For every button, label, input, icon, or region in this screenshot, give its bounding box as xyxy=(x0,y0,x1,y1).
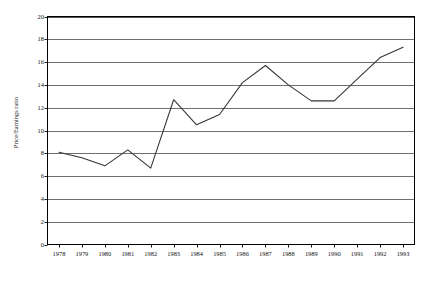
price-earnings-ratio-line-chart: Price/Earnings ratio 02468101214161820 1… xyxy=(0,0,436,282)
y-axis-tick-label: 12 xyxy=(18,104,44,110)
y-axis-tick-label: 10 xyxy=(18,127,44,133)
y-axis-tick-label: 20 xyxy=(18,13,44,19)
x-axis-tick-label: 1982 xyxy=(144,251,157,257)
y-axis-tick-label: 16 xyxy=(18,59,44,65)
x-axis-tick-labels: 1978197919801981198219831984198519861987… xyxy=(0,251,436,271)
y-axis-tick-label: 14 xyxy=(18,82,44,88)
y-axis-tick-label: 0 xyxy=(18,241,44,247)
x-axis-tick-label: 1979 xyxy=(76,251,89,257)
plot-canvas xyxy=(0,0,436,282)
y-axis-tick-label: 2 xyxy=(18,218,44,224)
data-series-line xyxy=(59,47,403,168)
x-axis-tick-label: 1985 xyxy=(213,251,226,257)
x-axis-tick-label: 1978 xyxy=(53,251,66,257)
x-axis-tick-label: 1984 xyxy=(190,251,203,257)
gridline-group xyxy=(48,18,415,223)
x-axis-tick-label: 1988 xyxy=(282,251,295,257)
x-axis-tick-label: 1993 xyxy=(397,251,410,257)
x-axis-tick-label: 1987 xyxy=(259,251,272,257)
x-axis-tick-label: 1986 xyxy=(236,251,249,257)
y-axis-tick-label: 8 xyxy=(18,150,44,156)
plot-area-border xyxy=(48,17,415,245)
y-axis-tick-label: 4 xyxy=(18,196,44,202)
x-axis-tick-label: 1980 xyxy=(98,251,111,257)
x-axis-tick-label: 1990 xyxy=(328,251,341,257)
x-axis-tick-label: 1991 xyxy=(351,251,364,257)
x-axis-tick-label: 1981 xyxy=(121,251,134,257)
y-axis-tick-labels: 02468101214161820 xyxy=(14,0,44,282)
x-axis-tick-label: 1989 xyxy=(305,251,318,257)
x-axis-tick-label: 1992 xyxy=(374,251,387,257)
y-axis-tick-label: 18 xyxy=(18,36,44,42)
y-axis-tick-label: 6 xyxy=(18,173,44,179)
x-axis-tick-label: 1983 xyxy=(167,251,180,257)
